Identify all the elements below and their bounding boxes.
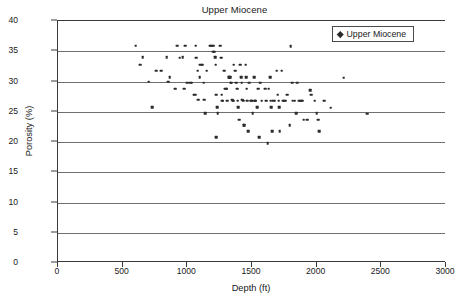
legend-label: Upper Miocene [347,29,407,39]
data-point [230,81,233,84]
data-point [238,118,241,121]
data-point [259,81,262,84]
data-point [176,45,179,48]
data-point [260,100,263,103]
y-tick-label-15: 15 [0,166,18,176]
x-tick-label-2500: 2500 [358,266,402,276]
data-point [279,130,282,133]
y-tick-label-35: 35 [0,45,18,55]
y-tick-label-10: 10 [0,197,18,207]
x-tick-label-1000: 1000 [164,266,208,276]
data-point [147,80,150,83]
data-point [277,94,280,97]
data-point [191,81,194,84]
data-point [278,106,281,109]
data-point [343,77,346,80]
data-point [236,100,239,103]
data-point [247,130,250,133]
x-tick-label-500: 500 [100,266,144,276]
data-point [317,118,320,121]
data-point [288,124,291,127]
data-point [291,81,294,84]
data-point [202,63,205,66]
data-point [293,100,296,103]
data-point [204,112,207,115]
data-point [222,100,225,103]
plot-area [57,20,445,262]
data-point [183,87,186,90]
data-point [366,112,369,115]
data-point [255,100,258,103]
y-axis-title: Porosity (%) [24,76,34,186]
y-tick-mark [51,171,57,172]
chart-title: Upper Miocene [0,4,469,15]
y-tick-mark [51,231,57,232]
data-point [257,87,260,90]
data-point [271,130,274,133]
legend-diamond-icon [337,31,343,37]
y-tick-mark [51,80,57,81]
gridline-y-15 [58,172,445,173]
data-point [226,100,229,103]
data-point [269,76,272,79]
x-tick-label-3000: 3000 [423,266,467,276]
data-point [268,87,271,90]
x-tick-label-0: 0 [35,266,79,276]
data-point [243,124,246,127]
x-tick-label-2000: 2000 [294,266,338,276]
data-point [280,69,283,72]
data-point [309,89,312,92]
data-point [194,45,197,48]
data-point [134,45,137,48]
data-point [323,100,326,103]
data-point [141,56,144,59]
data-point [244,63,247,66]
data-point [258,136,261,139]
gridline-y-30 [58,82,445,83]
data-point [197,98,200,101]
data-point [194,94,197,97]
data-point [240,76,243,79]
data-point [290,45,293,48]
data-point [270,106,273,109]
data-point [229,76,232,79]
data-point [277,100,280,103]
data-point [256,106,259,109]
gridline-y-10 [58,203,445,204]
data-point [275,69,278,72]
data-point [246,87,249,90]
data-point [165,56,168,59]
data-point [240,81,243,84]
data-point [223,69,226,72]
data-point [215,94,218,97]
data-point [220,94,223,97]
chart-legend: Upper Miocene [332,26,414,42]
data-point [232,100,235,103]
data-point [225,87,228,90]
data-point [220,57,223,60]
data-point [216,112,219,115]
data-point [169,76,172,79]
data-point [239,63,242,66]
data-point [215,136,218,139]
data-point [236,87,239,90]
data-point [310,94,313,97]
data-point [151,106,154,109]
y-tick-label-5: 5 [0,227,18,237]
data-point [214,63,217,66]
gridline-y-35 [58,51,445,52]
data-point [174,87,177,90]
data-point [286,94,289,97]
data-point [246,100,249,103]
data-point [205,69,208,72]
data-point [213,51,216,54]
data-point [195,57,198,60]
data-point [301,100,304,103]
data-point [245,76,248,79]
data-point [306,118,309,121]
y-tick-mark [51,141,57,142]
data-point [266,142,269,145]
data-point [167,80,170,83]
data-point [235,81,238,84]
data-point [216,106,219,109]
